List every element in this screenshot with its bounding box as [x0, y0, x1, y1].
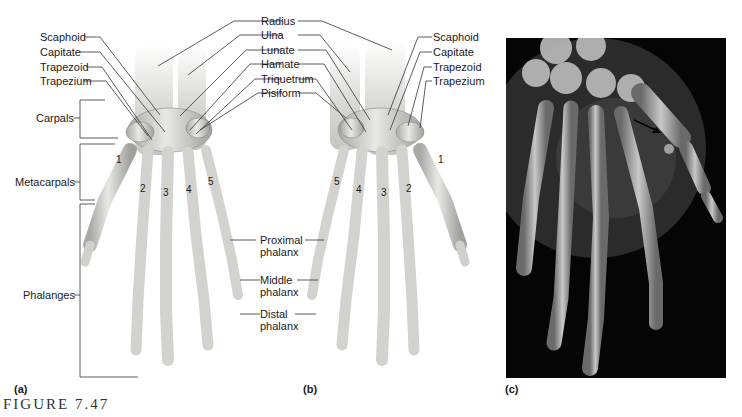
- panel-a-hand: [85, 45, 238, 360]
- xray-hand: [506, 38, 726, 378]
- label-trapezium-b: Trapezium: [433, 75, 485, 87]
- panel-label-b: (b): [303, 383, 317, 395]
- label-scaphoid-b: Scaphoid: [433, 31, 479, 43]
- panel-label-a: (a): [14, 383, 27, 395]
- figure-title: FIGURE 7.47: [3, 396, 109, 413]
- metacarpal-number-2-b: 2: [406, 183, 412, 195]
- label-middle-phalanx: Middle phalanx: [260, 274, 299, 298]
- label-scaphoid-a: Scaphoid: [40, 31, 86, 43]
- metacarpal-number-1-b: 1: [438, 154, 444, 166]
- label-phalanges: Phalanges: [23, 289, 75, 301]
- label-trapezoid-a: Trapezoid: [40, 61, 89, 73]
- label-pisiform: Pisiform: [261, 87, 301, 99]
- label-triquetrum: Triquetrum: [261, 73, 314, 85]
- metacarpal-number-4-b: 4: [356, 184, 362, 196]
- metacarpal-number-5-a: 5: [208, 176, 214, 188]
- metacarpal-number-4-a: 4: [186, 184, 192, 196]
- label-metacarpals: Metacarpals: [15, 176, 75, 188]
- xray-image: [506, 38, 726, 378]
- metacarpal-number-5-b: 5: [334, 176, 340, 188]
- label-ulna: Ulna: [261, 29, 284, 41]
- metacarpal-number-1-a: 1: [116, 154, 122, 166]
- panel-label-c: (c): [505, 383, 518, 395]
- label-distal-phalanx: Distal phalanx: [260, 308, 299, 332]
- label-trapezium-a: Trapezium: [40, 75, 92, 87]
- metacarpal-number-2-a: 2: [140, 183, 146, 195]
- label-proximal-phalanx: Proximal phalanx: [260, 234, 303, 258]
- label-radius: Radius: [261, 15, 295, 27]
- label-carpals: Carpals: [36, 112, 74, 124]
- label-hamate: Hamate: [261, 58, 300, 70]
- label-trapezoid-b: Trapezoid: [433, 61, 482, 73]
- metacarpal-number-3-a: 3: [163, 187, 169, 199]
- panel-b-hand: [312, 40, 465, 360]
- metacarpal-number-3-b: 3: [381, 187, 387, 199]
- label-capitate-a: Capitate: [40, 46, 81, 58]
- label-lunate: Lunate: [261, 44, 295, 56]
- label-capitate-b: Capitate: [433, 46, 474, 58]
